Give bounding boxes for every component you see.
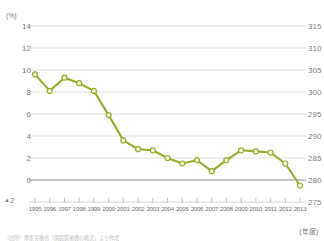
x-axis-ticklabel: 2012 bbox=[279, 205, 292, 212]
x-axis-ticklabel: 2004 bbox=[161, 205, 174, 212]
x-axis-ticklabel: 1996 bbox=[43, 205, 56, 212]
x-axis-ticklabel: 2000 bbox=[102, 205, 115, 212]
x-axis-ticklabel: 1997 bbox=[58, 205, 71, 212]
x-axis-unit-label: (年度) bbox=[299, 226, 318, 236]
x-axis-ticklabel: 2006 bbox=[191, 205, 204, 212]
x-axis-ticklabel: 2009 bbox=[235, 205, 248, 212]
x-axis-ticklabel: 2008 bbox=[220, 205, 233, 212]
x-axis-ticklabel: 2010 bbox=[250, 205, 263, 212]
x-axis-ticklabel: 2001 bbox=[117, 205, 130, 212]
x-axis-ticklabel: 2007 bbox=[205, 205, 218, 212]
x-axis-ticklabel: 1998 bbox=[73, 205, 86, 212]
x-axis-ticklabel: 1995 bbox=[29, 205, 42, 212]
x-axis-ticklabel: 2011 bbox=[264, 205, 276, 212]
x-axis-ticklabel: 2002 bbox=[132, 205, 145, 212]
x-axis-ticklabel: 1999 bbox=[88, 205, 101, 212]
negative-axis-value: 2 bbox=[10, 196, 14, 205]
x-axis-ticklabel: 2003 bbox=[146, 205, 159, 212]
x-axis-ticklabel: 2005 bbox=[176, 205, 189, 212]
chart-footnote: （出所）厚生労働省「国民医療費の概況」より作成 bbox=[4, 234, 119, 241]
x-axis-ticklabel: 2013 bbox=[294, 205, 307, 212]
negative-axis-label: ▲2 bbox=[4, 196, 14, 205]
